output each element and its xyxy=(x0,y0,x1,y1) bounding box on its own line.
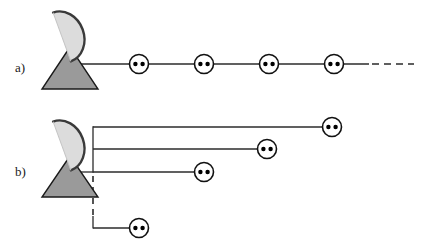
node-b-1-ring xyxy=(323,118,342,137)
node-b-2-ring xyxy=(258,140,277,159)
node-a-4-dot-left xyxy=(328,62,332,66)
satellite-dish-b xyxy=(53,114,91,170)
node-a-1-dot-left xyxy=(133,62,137,66)
node-b-1 xyxy=(323,118,342,137)
node-a-3-ring xyxy=(260,55,279,74)
node-b-3 xyxy=(195,163,214,182)
node-a-3 xyxy=(260,55,279,74)
node-a-4-dot-right xyxy=(335,62,339,66)
node-b-4-dot-left xyxy=(133,226,137,230)
satellite-dish-b-surface xyxy=(53,114,91,170)
node-b-1-dot-right xyxy=(333,125,337,129)
node-a-4 xyxy=(325,55,344,74)
node-a-2-dot-left xyxy=(198,62,202,66)
node-a-1 xyxy=(130,55,149,74)
node-b-2-dot-left xyxy=(261,147,265,151)
panel-a-label: a) xyxy=(15,60,25,75)
node-b-2 xyxy=(258,140,277,159)
node-b-3-dot-left xyxy=(198,170,202,174)
node-b-4-dot-right xyxy=(140,226,144,230)
node-b-2-dot-right xyxy=(268,147,272,151)
node-a-2 xyxy=(195,55,214,74)
node-a-2-dot-right xyxy=(205,62,209,66)
node-b-4-ring xyxy=(130,219,149,238)
figure-root: a) xyxy=(0,0,421,246)
topology-diagram-svg: a) xyxy=(0,0,421,246)
node-a-1-ring xyxy=(130,55,149,74)
node-b-3-ring xyxy=(195,163,214,182)
node-a-3-dot-left xyxy=(263,62,267,66)
node-b-4 xyxy=(130,219,149,238)
panel-a: a) xyxy=(15,5,414,89)
panel-b-label: b) xyxy=(15,164,26,179)
node-b-3-dot-right xyxy=(205,170,209,174)
node-a-4-ring xyxy=(325,55,344,74)
panel-b: b) xyxy=(15,114,342,237)
node-b-1-dot-left xyxy=(326,125,330,129)
satellite-dish-a-surface xyxy=(53,5,91,61)
satellite-dish-a xyxy=(53,5,91,61)
node-a-2-ring xyxy=(195,55,214,74)
node-a-3-dot-right xyxy=(270,62,274,66)
node-a-1-dot-right xyxy=(140,62,144,66)
